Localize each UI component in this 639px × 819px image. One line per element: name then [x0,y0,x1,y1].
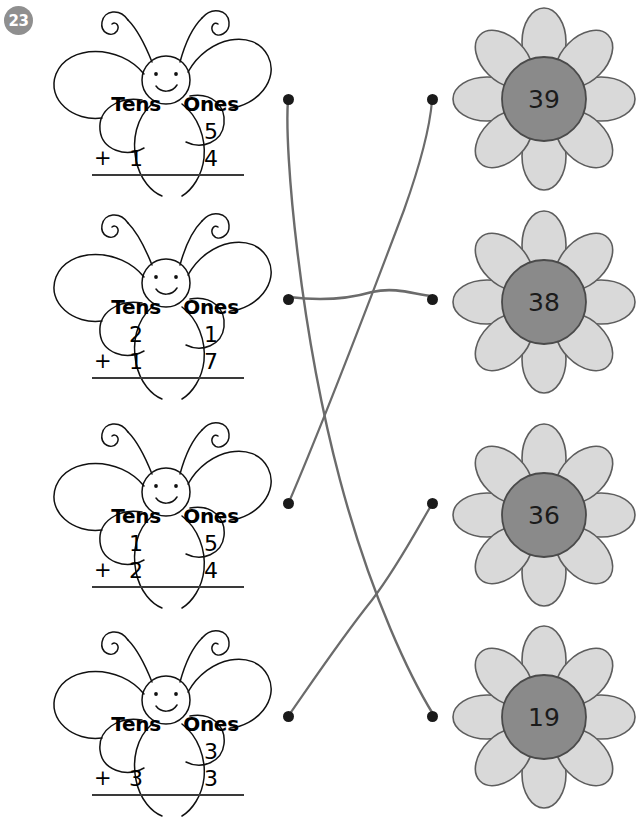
connector-dot-left-1[interactable] [283,94,294,105]
bottom-ones-digit: 4 [174,558,248,583]
connector-dot-right-4[interactable] [427,711,438,722]
worksheet-page: 23 [0,0,639,819]
top-ones-digit: 5 [174,119,248,144]
column-headers: Tens Ones [98,295,248,319]
plus-sign: + [94,766,112,790]
addend-bottom-row: + 2 4 [98,558,248,583]
top-ones-digit: 1 [174,322,248,347]
addend-top-row: 5 [98,119,248,144]
flower-answer-4: 19 [528,703,560,732]
flower-answer-1: 39 [528,85,560,114]
addend-bottom-row: + 1 7 [98,349,248,374]
flower-1: 39 [452,4,637,194]
top-tens-digit: 1 [98,531,174,556]
flower-illustration: 39 [452,4,637,194]
addend-bottom-row: + 1 4 [98,146,248,171]
sum-line [92,586,244,588]
flower-4: 19 [452,622,637,812]
butterfly-3: Tens Ones 1 5 + 2 4 [40,412,295,617]
butterfly-1: Tens Ones 5 + 1 4 [40,0,295,205]
connector-dot-left-2[interactable] [283,294,294,305]
flower-2: 38 [452,207,637,397]
tens-header: Tens [98,92,174,116]
column-headers: Tens Ones [98,712,248,736]
column-headers: Tens Ones [98,504,248,528]
connector-dot-left-4[interactable] [283,711,294,722]
ones-header: Ones [174,504,248,528]
tens-header: Tens [98,295,174,319]
addend-top-row: 2 1 [98,322,248,347]
bottom-ones-digit: 3 [174,766,248,791]
problem-row-1: Tens Ones 5 + 1 4 [0,0,639,205]
connector-dot-left-3[interactable] [283,498,294,509]
tens-header: Tens [98,712,174,736]
top-tens-digit [98,119,174,144]
problem-row-4: Tens Ones 3 + 3 3 [0,620,639,819]
plus-sign: + [94,349,112,373]
flower-answer-3: 36 [528,501,560,530]
math-problem-4: Tens Ones 3 + 3 3 [98,712,248,796]
sum-line [92,794,244,796]
column-headers: Tens Ones [98,92,248,116]
flower-illustration: 19 [452,622,637,812]
problem-row-3: Tens Ones 1 5 + 2 4 [0,412,639,617]
flower-illustration: 36 [452,420,637,610]
flower-answer-2: 38 [528,288,560,317]
problem-row-2: Tens Ones 2 1 + 1 7 [0,203,639,408]
ones-header: Ones [174,92,248,116]
sum-line [92,377,244,379]
flower-illustration: 38 [452,207,637,397]
math-problem-1: Tens Ones 5 + 1 4 [98,92,248,176]
flower-3: 36 [452,420,637,610]
ones-header: Ones [174,295,248,319]
butterfly-2: Tens Ones 2 1 + 1 7 [40,203,295,408]
butterfly-4: Tens Ones 3 + 3 3 [40,620,295,819]
math-problem-2: Tens Ones 2 1 + 1 7 [98,295,248,379]
ones-header: Ones [174,712,248,736]
tens-header: Tens [98,504,174,528]
top-ones-digit: 5 [174,531,248,556]
bottom-ones-digit: 4 [174,146,248,171]
connector-dot-right-2[interactable] [427,294,438,305]
math-problem-3: Tens Ones 1 5 + 2 4 [98,504,248,588]
top-tens-digit: 2 [98,322,174,347]
plus-sign: + [94,558,112,582]
connector-dot-right-3[interactable] [427,498,438,509]
top-tens-digit [98,739,174,764]
addend-top-row: 1 5 [98,531,248,556]
top-ones-digit: 3 [174,739,248,764]
addend-bottom-row: + 3 3 [98,766,248,791]
sum-line [92,174,244,176]
bottom-ones-digit: 7 [174,349,248,374]
connector-dot-right-1[interactable] [427,94,438,105]
addend-top-row: 3 [98,739,248,764]
plus-sign: + [94,146,112,170]
